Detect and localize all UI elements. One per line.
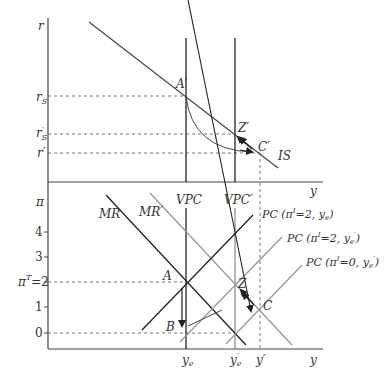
bottom-y-axis-label: π [35, 195, 45, 209]
point-cp-label: C′ [258, 140, 270, 154]
rs-label: rS [36, 90, 48, 106]
point-c-label: C [263, 299, 272, 313]
pc2-line [180, 237, 282, 342]
ye-label: ye [181, 353, 194, 368]
rp-label: r′ [37, 146, 46, 160]
point-zp-label: Z′ [237, 121, 249, 135]
pc2-label: PC (πI=2, ye′) [286, 231, 360, 246]
is-label: IS [277, 149, 291, 163]
point-b-label: B [165, 320, 175, 334]
arrow-cp-to-zp-2 [238, 137, 246, 144]
tick-0: 0 [35, 326, 43, 340]
mrp-label: MR′ [138, 205, 163, 219]
point-ap-label: A′ [175, 77, 188, 91]
mr-label: MR [98, 207, 120, 221]
tick-3: 3 [35, 250, 43, 264]
tick-1: 1 [35, 300, 43, 314]
tick-4: 4 [35, 225, 43, 239]
mr-line [106, 195, 246, 345]
is-pc-mr-diagram: r y rS rS′ r′ IS A′ Z′ C′ π y 4 3 1 0 πT… [0, 0, 388, 382]
rsp-label: rS′ [36, 125, 48, 142]
top-x-axis-label: y [309, 184, 317, 198]
arrow-b-to-c [188, 0, 251, 311]
point-z-label: Z [237, 277, 247, 291]
path-b-to-z [188, 310, 222, 326]
bottom-x-axis-label: y [309, 353, 317, 367]
target-inflation-label: πT=2 [17, 273, 49, 289]
point-a-label: A [162, 269, 172, 283]
pc1-label: PC (πI=2, ye) [261, 207, 334, 222]
pc3-label: PC (πI=0, ye′) [305, 255, 379, 270]
pc1-line [142, 215, 253, 330]
top-y-axis-label: r [38, 19, 45, 33]
yep-label: ye′ [229, 351, 242, 368]
yp-label: y′ [255, 353, 266, 367]
vpc-label: VPC [176, 193, 202, 207]
